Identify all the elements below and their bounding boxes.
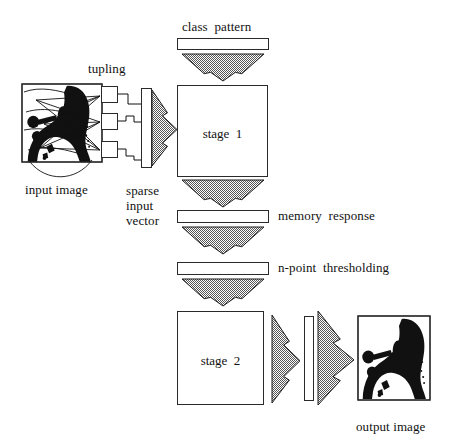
arrow-memory-to-threshold <box>182 227 264 254</box>
arrow-sparse-to-stage1 <box>152 90 177 166</box>
stage-1-label: stage 1 <box>178 126 267 142</box>
sparse-input-vector-bar <box>141 88 152 168</box>
arrow-threshold-to-stage2 <box>182 279 264 306</box>
intermediate-vector-bar <box>304 316 314 401</box>
output-photo-group <box>358 316 430 400</box>
stage-2-label: stage 2 <box>178 353 263 369</box>
arrow-class-to-stage1 <box>182 54 264 81</box>
class-pattern-label: class pattern <box>182 20 251 34</box>
memory-response-bar <box>177 210 269 223</box>
tuple-box-1 <box>101 86 118 103</box>
class-pattern-bar <box>177 38 269 50</box>
tuple-to-vector-connectors <box>118 94 141 160</box>
tuple-box-2 <box>101 113 118 130</box>
n-point-thresholding-bar <box>177 262 269 275</box>
memory-response-label: memory response <box>278 209 375 223</box>
stage-1-box: stage 1 <box>177 85 268 177</box>
arrow-stage1-to-memory <box>182 180 264 207</box>
arrow-stage2-to-vector <box>272 315 300 403</box>
tupling-label: tupling <box>88 62 126 76</box>
n-point-thresholding-label: n-point thresholding <box>278 261 389 275</box>
sparse-input-vector-label: sparse input vector <box>126 183 159 228</box>
tuple-box-3 <box>101 141 118 158</box>
output-image-label: output image <box>356 420 425 434</box>
input-image-label: input image <box>25 183 88 197</box>
input-photo-group <box>22 84 102 177</box>
stage-2-box: stage 2 <box>177 311 264 405</box>
arrow-vector-to-output <box>318 311 354 405</box>
diagram-canvas: stage 1 stage 2 class pattern tupling in… <box>0 0 454 445</box>
